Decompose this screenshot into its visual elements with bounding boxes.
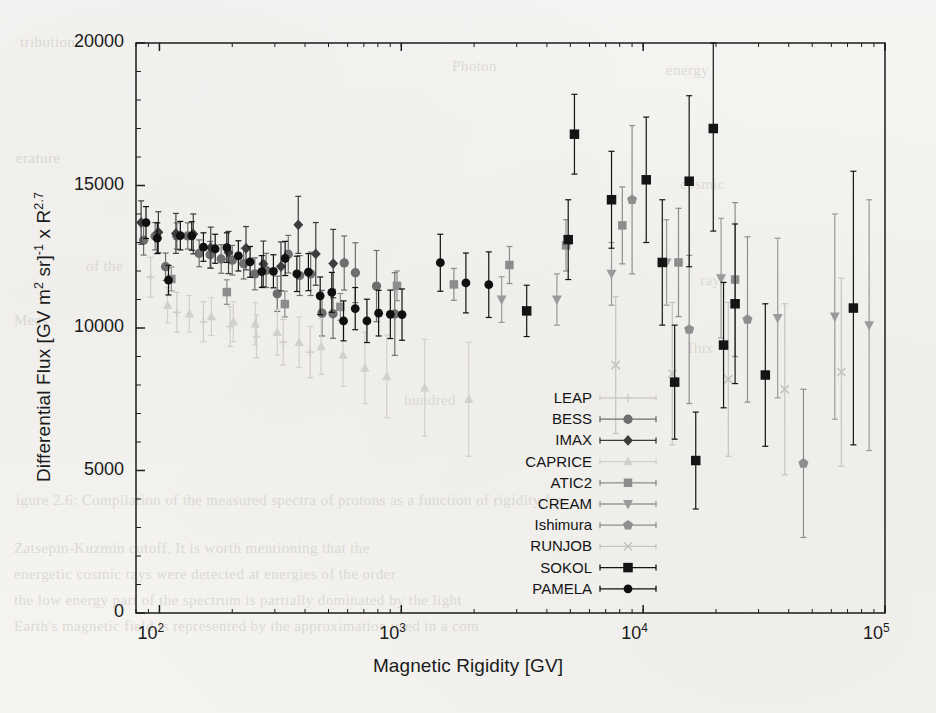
legend-label-leap[interactable]: LEAP bbox=[392, 389, 592, 406]
data-marker bbox=[719, 340, 729, 350]
data-marker bbox=[624, 479, 633, 488]
data-marker bbox=[223, 288, 232, 297]
legend-label-atic2[interactable]: ATIC2 bbox=[392, 474, 592, 491]
data-marker bbox=[311, 248, 321, 259]
data-marker bbox=[618, 221, 627, 230]
data-marker bbox=[163, 300, 172, 309]
y-tick-label: 10000 bbox=[14, 316, 124, 337]
data-marker bbox=[351, 268, 360, 277]
data-marker bbox=[139, 236, 148, 245]
legend-label-ishimura[interactable]: Ishimura bbox=[392, 516, 592, 533]
data-marker bbox=[185, 309, 194, 318]
data-marker bbox=[624, 394, 632, 402]
data-marker bbox=[281, 300, 290, 309]
data-marker bbox=[374, 309, 383, 318]
plot-svg bbox=[0, 0, 936, 713]
data-marker bbox=[730, 299, 740, 309]
data-marker bbox=[674, 258, 683, 267]
series-bess bbox=[139, 223, 400, 356]
data-marker bbox=[372, 281, 381, 290]
y-tick-label: 15000 bbox=[14, 174, 124, 195]
data-marker bbox=[211, 244, 220, 253]
legend bbox=[600, 394, 656, 593]
y-tick-label: 5000 bbox=[14, 459, 124, 480]
data-marker bbox=[273, 327, 282, 336]
data-marker bbox=[849, 303, 859, 313]
data-marker bbox=[522, 306, 532, 316]
data-marker bbox=[327, 288, 336, 297]
data-marker bbox=[199, 243, 208, 252]
data-marker bbox=[742, 314, 752, 324]
data-marker bbox=[339, 316, 348, 325]
data-marker bbox=[398, 310, 407, 319]
data-marker bbox=[670, 377, 680, 387]
proton-spectrum-chart: Magnetic Rigidity [GV] Differential Flux… bbox=[0, 0, 936, 713]
data-marker bbox=[316, 291, 325, 300]
data-marker bbox=[623, 457, 632, 466]
series-pamela bbox=[142, 207, 494, 343]
data-marker bbox=[607, 270, 617, 279]
data-marker bbox=[351, 304, 360, 313]
data-marker bbox=[658, 258, 668, 268]
data-marker bbox=[450, 280, 459, 289]
data-marker bbox=[340, 258, 349, 267]
data-marker bbox=[246, 257, 255, 266]
data-marker bbox=[142, 218, 151, 227]
data-marker bbox=[187, 232, 196, 241]
data-marker bbox=[363, 316, 372, 325]
data-marker bbox=[642, 175, 652, 185]
legend-label-bess[interactable]: BESS bbox=[392, 410, 592, 427]
data-marker bbox=[304, 268, 313, 277]
data-marker bbox=[607, 195, 617, 205]
y-axis-title: Differential Flux [GV m2 sr]-1 x R2.7 bbox=[33, 57, 55, 617]
series-ishimura bbox=[627, 126, 808, 538]
data-marker bbox=[563, 235, 573, 245]
data-marker bbox=[153, 234, 162, 243]
data-marker bbox=[773, 314, 783, 323]
legend-label-imax[interactable]: IMAX bbox=[392, 431, 592, 448]
legend-label-runjob[interactable]: RUNJOB bbox=[392, 537, 592, 554]
data-marker bbox=[294, 337, 303, 346]
data-marker bbox=[570, 129, 580, 139]
legend-label-caprice[interactable]: CAPRICE bbox=[392, 453, 592, 470]
data-marker bbox=[292, 269, 301, 278]
data-marker bbox=[623, 415, 632, 424]
data-marker bbox=[684, 176, 694, 186]
data-marker bbox=[624, 584, 633, 593]
data-marker bbox=[864, 321, 874, 330]
data-marker bbox=[761, 370, 771, 380]
data-marker bbox=[436, 258, 445, 267]
data-marker bbox=[552, 296, 562, 305]
data-marker bbox=[200, 318, 208, 326]
data-marker bbox=[281, 254, 290, 263]
legend-label-pamela[interactable]: PAMELA bbox=[392, 580, 592, 597]
data-marker bbox=[462, 279, 471, 288]
data-marker bbox=[147, 273, 155, 281]
data-marker bbox=[627, 194, 637, 204]
x-tick-label: 105 bbox=[863, 623, 890, 644]
data-marker bbox=[269, 267, 278, 276]
legend-label-cream[interactable]: CREAM bbox=[392, 495, 592, 512]
data-marker bbox=[164, 276, 173, 285]
y-tick-label: 0 bbox=[14, 601, 124, 622]
data-marker bbox=[505, 261, 513, 270]
data-marker bbox=[684, 324, 694, 334]
data-marker bbox=[306, 348, 314, 356]
data-marker bbox=[623, 435, 633, 446]
data-marker bbox=[279, 338, 287, 346]
data-marker bbox=[328, 258, 338, 269]
data-marker bbox=[293, 219, 303, 230]
data-marker bbox=[253, 333, 261, 341]
x-tick-label: 102 bbox=[137, 623, 164, 644]
data-marker bbox=[251, 319, 260, 328]
data-marker bbox=[709, 124, 719, 134]
data-marker bbox=[207, 312, 216, 321]
data-marker bbox=[623, 520, 633, 530]
data-marker bbox=[176, 231, 185, 240]
data-marker bbox=[497, 296, 507, 305]
legend-label-sokol[interactable]: SOKOL bbox=[392, 559, 592, 576]
data-marker bbox=[623, 500, 633, 509]
data-marker bbox=[798, 458, 808, 468]
data-marker bbox=[316, 341, 325, 350]
data-marker bbox=[222, 243, 231, 252]
